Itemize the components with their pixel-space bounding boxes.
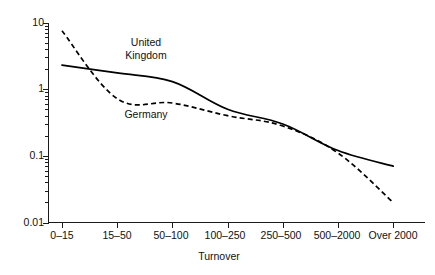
y-tick-label-10: 10 xyxy=(12,17,44,28)
x-axis-title: Turnover xyxy=(164,250,274,262)
series-label-germany: Germany xyxy=(108,108,184,121)
x-tick-label-over-2000: Over 2000 xyxy=(357,229,429,242)
y-tick-label-1: 1 xyxy=(12,83,44,94)
chart-figure: 10 1 0.1 0.01 0–15 15–50 50–100 100–250 … xyxy=(0,0,435,275)
series-label-united-kingdom: United Kingdom xyxy=(108,36,184,62)
y-axis-ticks xyxy=(43,24,49,224)
y-tick-label-0.1: 0.1 xyxy=(12,150,44,161)
y-tick-label-0.01: 0.01 xyxy=(8,217,44,228)
x-axis-ticks xyxy=(63,223,394,229)
